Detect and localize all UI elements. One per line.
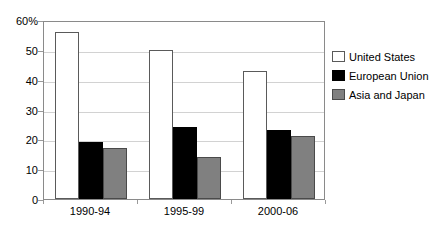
- y-tick-label: 20: [26, 135, 38, 146]
- legend: United StatesEuropean UnionAsia and Japa…: [332, 48, 444, 105]
- bar-1990-94-asia-and-japan: [103, 148, 127, 199]
- bar-2000-06-asia-and-japan: [291, 136, 315, 199]
- bar-1995-99-asia-and-japan: [197, 157, 221, 199]
- legend-label: Asia and Japan: [349, 89, 425, 101]
- bar-1990-94-european-union: [79, 142, 103, 199]
- legend-label: United States: [349, 51, 415, 63]
- legend-swatch-icon: [332, 70, 345, 81]
- y-tick-label: 30: [26, 105, 38, 116]
- plot-area: [43, 21, 325, 200]
- y-tick-label: 40: [26, 75, 38, 86]
- x-tick-label: 2000-06: [258, 205, 298, 217]
- bar-1995-99-european-union: [173, 127, 197, 199]
- legend-item[interactable]: Asia and Japan: [332, 86, 444, 103]
- bar-chart: 0102030405060% 1990-941995-992000-06 Uni…: [0, 0, 448, 230]
- bars-layer: [44, 22, 324, 199]
- bar-1995-99-united-states: [149, 50, 173, 199]
- bar-2000-06-european-union: [267, 130, 291, 199]
- x-tick-label: 1990-94: [70, 205, 110, 217]
- bar-2000-06-united-states: [243, 71, 267, 199]
- legend-item[interactable]: United States: [332, 48, 444, 65]
- x-tick-label: 1995-99: [164, 205, 204, 217]
- bar-1990-94-united-states: [55, 32, 79, 199]
- legend-item[interactable]: European Union: [332, 67, 444, 84]
- y-tick-label: 10: [26, 165, 38, 176]
- x-tickmark: [231, 200, 232, 204]
- y-tick-label: 60%: [16, 16, 38, 27]
- x-tickmark: [137, 200, 138, 204]
- y-axis: 0102030405060%: [0, 0, 38, 230]
- legend-swatch-icon: [332, 89, 345, 100]
- legend-swatch-icon: [332, 51, 345, 62]
- y-tick-label: 50: [26, 45, 38, 56]
- legend-label: European Union: [349, 70, 429, 82]
- x-tickmark: [43, 200, 44, 204]
- x-tickmark: [325, 200, 326, 204]
